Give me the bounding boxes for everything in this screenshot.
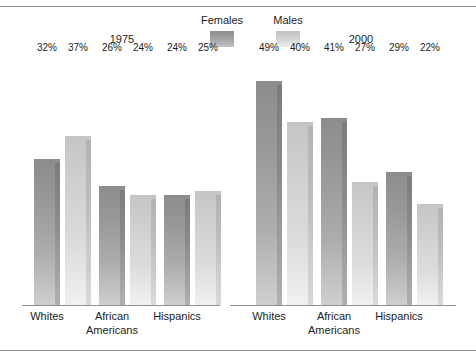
chart-figure: Females Males 1975 2000 32% 37% [0,0,476,357]
bar-shadow [407,176,412,305]
bar-2000-african-americans-females[interactable]: 41% [321,55,347,305]
bar-shadow [216,195,221,305]
bar-value-label: 26% [102,42,122,53]
cat-label-line1: Whites [30,310,64,322]
bar-2000-hispanics-males[interactable]: 22% [417,55,443,305]
bar-shadow [277,85,282,305]
cat-label-line1: African [95,310,129,322]
axis-baseline-1975 [22,305,220,306]
bar-1975-hispanics-females[interactable]: 24% [164,55,190,305]
cat-label-line2: Americans [69,323,155,337]
bar-shadow [86,140,91,305]
bar-value-label: 24% [133,42,153,53]
cat-label-line1: Whites [252,310,286,322]
panel-2000: 49% 40% 41% [228,0,458,357]
bar-2000-african-americans-males[interactable]: 27% [352,55,378,305]
bar-value-label: 40% [290,42,310,53]
cat-label-line2: Americans [291,323,377,337]
bar-1975-hispanics-males[interactable]: 25% [195,55,221,305]
bar-2000-hispanics-females[interactable]: 29% [386,55,412,305]
bar-shadow [55,163,60,305]
cat-label-2000-hispanics: Hispanics [356,309,442,323]
bar-value-label: 32% [37,42,57,53]
bar-shadow [308,126,313,305]
bar-value-label: 29% [389,42,409,53]
bar-shadow [438,208,443,305]
bar-1975-african-americans-males[interactable]: 24% [130,55,156,305]
bar-shadow [373,186,378,305]
panel-1975: 32% 37% 26% [18,0,230,357]
bar-shadow [342,122,347,305]
bar-value-label: 25% [198,42,218,53]
bar-1975-whites-males[interactable]: 37% [65,55,91,305]
bar-shadow [185,199,190,305]
bar-value-label: 22% [420,42,440,53]
cat-label-line1: African [317,310,351,322]
bar-shadow [151,199,156,305]
bar-value-label: 27% [355,42,375,53]
cat-label-line1: Hispanics [375,310,423,322]
bar-value-label: 24% [167,42,187,53]
bar-value-label: 41% [324,42,344,53]
cat-label-line1: Hispanics [153,310,201,322]
bar-2000-whites-females[interactable]: 49% [256,55,282,305]
bar-2000-whites-males[interactable]: 40% [287,55,313,305]
cat-label-1975-hispanics: Hispanics [134,309,220,323]
bar-value-label: 49% [259,42,279,53]
axis-baseline-2000 [230,305,456,306]
bar-1975-african-americans-females[interactable]: 26% [99,55,125,305]
bar-shadow [120,190,125,305]
bar-value-label: 37% [68,42,88,53]
bar-1975-whites-females[interactable]: 32% [34,55,60,305]
